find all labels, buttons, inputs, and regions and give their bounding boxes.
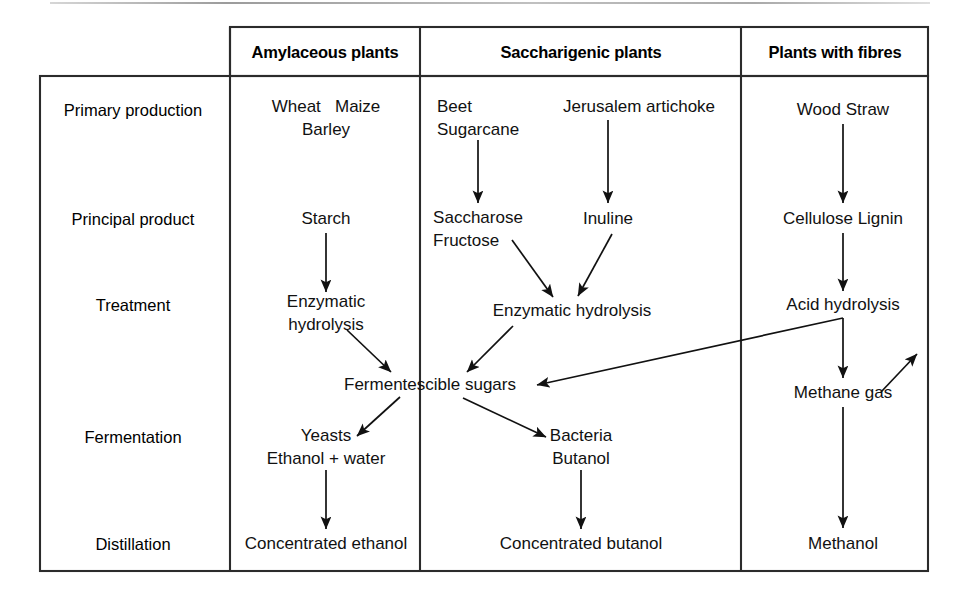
node-wheat-maize-barley: Wheat Maize Barley [272,95,381,141]
edge-enzymatic-starch-to-sugars [347,330,391,372]
node-cellulose-lignin: Cellulose Lignin [783,208,903,230]
node-yeasts-ethanol-water: Yeasts Ethanol + water [267,424,386,470]
node-jerusalem-artichoke: Jerusalem artichoke [563,96,715,118]
row-label-primary-production: Primary production [64,100,202,121]
node-fermentescible-sugars: Fermentescible sugars [344,374,516,396]
row-label-distillation: Distillation [95,534,170,555]
diagram-canvas: Amylaceous plants Saccharigenic plants P… [0,0,968,603]
node-wood-straw: Wood Straw [797,99,889,121]
column-header-saccharigenic: Saccharigenic plants [500,43,661,62]
node-methanol: Methanol [808,533,878,555]
node-beet-sugarcane: Beet Sugarcane [437,95,519,141]
node-methane-gas: Methane gas [794,382,892,404]
node-concentrated-ethanol: Concentrated ethanol [245,533,408,555]
node-starch: Starch [301,208,350,230]
node-saccharose-fructose: Saccharose Fructose [433,206,523,252]
row-label-fermentation: Fermentation [84,427,181,448]
node-enzymatic-hydrolysis-sugar: Enzymatic hydrolysis [493,300,652,322]
node-bacteria-butanol: Bacteria Butanol [550,424,612,470]
node-concentrated-butanol: Concentrated butanol [500,533,663,555]
node-inuline: Inuline [583,208,633,230]
edge-acid-to-sugars-long [537,318,843,385]
node-enzymatic-hydrolysis-starch: Enzymatic hydrolysis [287,290,365,336]
node-acid-hydrolysis: Acid hydrolysis [786,294,899,316]
row-label-principal-product: Principal product [72,209,195,230]
edge-enzymatic-sugar-to-sugars [467,326,513,372]
column-header-amylaceous: Amylaceous plants [252,43,399,62]
column-header-fibres: Plants with fibres [768,43,901,62]
edge-inuline-to-enzymatic [578,234,612,296]
row-label-treatment: Treatment [96,295,171,316]
edge-sugars-to-bacteria [463,398,546,437]
